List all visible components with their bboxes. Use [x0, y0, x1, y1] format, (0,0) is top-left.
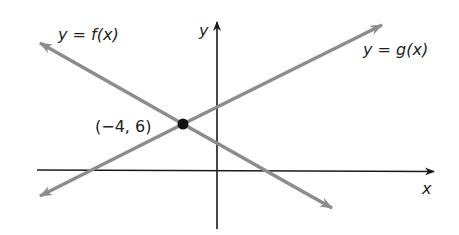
intersection-point	[178, 119, 189, 130]
intersection-label: (−4, 6)	[95, 117, 151, 136]
line-g	[183, 25, 382, 124]
y-axis-label: y	[198, 21, 209, 40]
x-axis	[37, 170, 434, 172]
x-axis-label: x	[421, 179, 432, 198]
coordinate-plane: y = f(x) y = g(x) (−4, 6) y x	[0, 0, 459, 235]
line-g-label: y = g(x)	[362, 40, 428, 59]
line-f-lower	[183, 124, 332, 208]
line-f	[40, 43, 183, 124]
line-f-label: y = f(x)	[57, 25, 119, 44]
